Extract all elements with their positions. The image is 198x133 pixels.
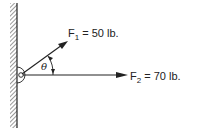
f1-subscript: 1	[75, 33, 79, 42]
force-diagram	[0, 0, 198, 133]
theta-label: θ	[41, 61, 47, 72]
f1-value: = 50 lb.	[82, 27, 118, 39]
angle-arc	[48, 56, 55, 75]
force-f2-label: F2 = 70 lb.	[130, 70, 181, 85]
f2-value: = 70 lb.	[144, 70, 180, 82]
f2-symbol: F	[130, 70, 137, 82]
wall	[10, 3, 17, 128]
f1-symbol: F	[68, 27, 75, 39]
force-f2-arrow	[23, 72, 128, 78]
f2-subscript: 2	[137, 76, 141, 85]
force-f1-label: F1 = 50 lb.	[68, 27, 119, 42]
